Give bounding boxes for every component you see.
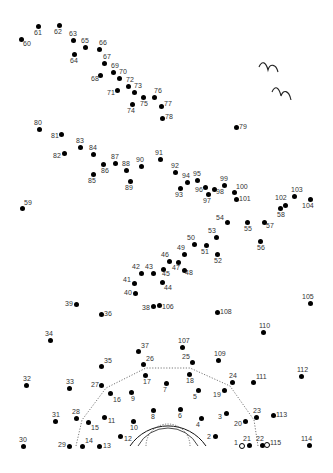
dot-10 xyxy=(131,419,136,424)
dot-label: 109 xyxy=(214,350,226,357)
dot-label: 85 xyxy=(88,177,96,184)
dot-to-dot-puzzle: 1234567891011121314151617181920212223242… xyxy=(0,0,333,473)
dot-86 xyxy=(101,162,106,167)
dot-90 xyxy=(139,164,144,169)
dot-label: 104 xyxy=(302,202,314,209)
dot-label: 27 xyxy=(91,381,99,388)
dot-27 xyxy=(99,383,104,388)
dot-label: 90 xyxy=(136,156,144,163)
dot-92 xyxy=(173,170,178,175)
dot-label: 9 xyxy=(131,395,135,402)
dot-73 xyxy=(132,90,137,95)
dot-114 xyxy=(307,443,312,448)
dot-label: 66 xyxy=(99,39,107,46)
dot-42 xyxy=(139,271,144,276)
dot-4 xyxy=(199,416,204,421)
dot-84 xyxy=(91,152,96,157)
dot-label: 36 xyxy=(104,310,112,317)
bird-icon xyxy=(259,63,278,72)
dot-label: 77 xyxy=(164,100,172,107)
dot-label: 12 xyxy=(124,435,132,442)
dot-label: 62 xyxy=(54,28,62,35)
dot-37 xyxy=(136,349,141,354)
dot-109 xyxy=(216,358,221,363)
dot-label: 58 xyxy=(277,211,285,218)
dot-label: 99 xyxy=(220,175,228,182)
dot-label: 79 xyxy=(239,123,247,130)
inner-dotted-arc xyxy=(146,424,190,446)
dot-75 xyxy=(141,95,146,100)
dot-label: 112 xyxy=(297,366,308,373)
dot-label: 71 xyxy=(107,89,115,96)
dot-label: 100 xyxy=(236,183,248,190)
dot-91 xyxy=(158,157,163,162)
dot-51 xyxy=(204,243,209,248)
dot-label: 30 xyxy=(19,436,27,443)
decorations xyxy=(0,0,333,473)
dot-label: 40 xyxy=(124,289,132,296)
dot-3 xyxy=(224,411,229,416)
dot-label: 61 xyxy=(34,29,42,36)
dot-label: 26 xyxy=(146,355,154,362)
dot-label: 7 xyxy=(163,386,167,393)
dot-61 xyxy=(36,24,41,29)
dot-label: 35 xyxy=(104,357,112,364)
outer-arc xyxy=(130,426,206,446)
dot-6 xyxy=(178,407,183,412)
dot-83 xyxy=(78,145,83,150)
dot-50 xyxy=(192,242,197,247)
dot-label: 10 xyxy=(130,424,138,431)
dot-100 xyxy=(232,190,237,195)
dot-82 xyxy=(62,151,67,156)
dot-33 xyxy=(67,386,72,391)
dot-112 xyxy=(299,374,304,379)
dot-label: 45 xyxy=(162,270,170,277)
dot-label: 41 xyxy=(123,276,131,283)
dot-label: 82 xyxy=(53,152,61,159)
dot-label: 53 xyxy=(208,227,216,234)
dot-label: 91 xyxy=(155,149,163,156)
dot-label: 17 xyxy=(143,378,151,385)
dot-8 xyxy=(151,408,156,413)
dot-18 xyxy=(187,372,192,377)
dot-9 xyxy=(129,390,134,395)
dot-20 xyxy=(243,419,248,424)
dot-85 xyxy=(91,172,96,177)
dot-74 xyxy=(130,102,135,107)
dot-79 xyxy=(234,125,239,130)
dot-label: 89 xyxy=(125,184,133,191)
dot-label: 73 xyxy=(134,82,142,89)
dot-label: 65 xyxy=(81,37,89,44)
dot-40 xyxy=(133,291,138,296)
dot-35 xyxy=(99,364,104,369)
dot-96 xyxy=(203,185,208,190)
dot-label: 78 xyxy=(165,113,173,120)
dot-2 xyxy=(213,434,218,439)
dot-46 xyxy=(167,259,172,264)
dot-16 xyxy=(108,391,113,396)
dot-43 xyxy=(151,271,156,276)
dot-label: 103 xyxy=(291,186,303,193)
dot-label: 47 xyxy=(172,264,180,271)
dot-label: 42 xyxy=(132,263,140,270)
dot-label: 96 xyxy=(195,186,203,193)
dot-66 xyxy=(97,47,102,52)
dot-94 xyxy=(185,180,190,185)
dot-72 xyxy=(126,84,131,89)
dot-label: 69 xyxy=(111,62,119,69)
dot-5 xyxy=(196,388,201,393)
dot-label: 24 xyxy=(229,372,237,379)
dot-label: 74 xyxy=(127,107,135,114)
dot-56 xyxy=(258,239,263,244)
dot-label: 83 xyxy=(76,137,84,144)
dot-label: 54 xyxy=(216,214,224,221)
dot-label: 28 xyxy=(72,408,80,415)
dot-label: 8 xyxy=(151,413,155,420)
dot-15 xyxy=(86,420,91,425)
dot-label: 108 xyxy=(220,308,232,315)
dot-label: 43 xyxy=(145,263,153,270)
dot-102 xyxy=(283,203,288,208)
dot-label: 22 xyxy=(256,435,264,442)
dot-label: 95 xyxy=(193,170,201,177)
dot-label: 25 xyxy=(182,353,190,360)
